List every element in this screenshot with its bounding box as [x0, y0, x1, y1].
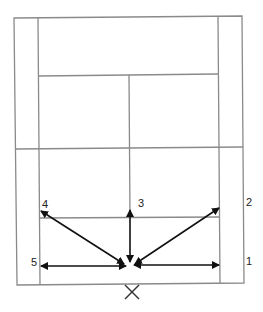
base-position-x-marker — [125, 285, 139, 299]
arrow-2 — [135, 208, 219, 264]
move-label-4: 4 — [42, 199, 48, 210]
right-singles-sideline — [218, 16, 220, 283]
center-line — [129, 75, 130, 218]
badminton-court-diagram — [0, 0, 263, 312]
arrow-4 — [41, 211, 124, 264]
move-label-1: 1 — [246, 256, 252, 267]
move-label-5: 5 — [31, 257, 37, 268]
move-label-2: 2 — [246, 197, 252, 208]
court-lines — [14, 16, 244, 285]
move-label-3: 3 — [138, 198, 144, 209]
left-singles-sideline — [38, 18, 40, 285]
